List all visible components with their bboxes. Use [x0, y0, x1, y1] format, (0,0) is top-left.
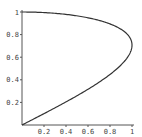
x-tick-label: 0.8 [104, 128, 117, 136]
x-tick-label: 0.6 [82, 128, 95, 136]
y-tick-label: 0.2 [6, 99, 19, 107]
x-tick-label: 1 [130, 128, 134, 136]
y-tick-label: 0.4 [6, 76, 19, 84]
y-tick-label: 1 [15, 9, 19, 17]
chart: 0.20.40.60.810.20.40.60.81 [0, 0, 142, 137]
tick-labels: 0.20.40.60.810.20.40.60.81 [6, 9, 134, 137]
y-tick-label: 0.6 [6, 54, 19, 62]
y-tick-label: 0.8 [6, 31, 19, 39]
x-tick-label: 0.2 [38, 128, 51, 136]
data-curve [22, 12, 132, 125]
x-tick-label: 0.4 [60, 128, 73, 136]
